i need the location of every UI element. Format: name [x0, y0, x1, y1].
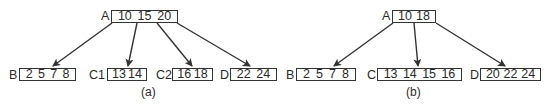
key: 8: [62, 69, 69, 80]
leaf-node-d: 20 22 24: [480, 68, 541, 81]
key: 14: [128, 69, 142, 80]
node-label-b: B: [286, 69, 294, 82]
tree-edges: [0, 0, 553, 105]
key: 10: [118, 11, 132, 22]
edge-a-to-d: [177, 23, 250, 66]
leaf-node-c2: 16 18: [172, 68, 213, 81]
key: 8: [342, 69, 349, 80]
key: 13: [112, 69, 126, 80]
key: 14: [403, 69, 417, 80]
key: 16: [177, 69, 191, 80]
caption-a: (a): [141, 86, 156, 99]
leaf-node-c: 13 14 15 16: [377, 68, 462, 81]
key: 7: [50, 69, 57, 80]
root-node: 10 18: [392, 10, 436, 23]
leaf-node-c1: 13 14: [107, 68, 147, 81]
node-label-root: A: [101, 10, 109, 23]
edge-a-to-b: [53, 23, 112, 66]
edge-a-to-d-b: [436, 23, 505, 66]
key: 15: [138, 11, 152, 22]
key: 7: [329, 69, 336, 80]
key: 15: [422, 69, 436, 80]
edge-a-to-b-b: [334, 23, 393, 66]
key: 10: [398, 11, 412, 22]
key: 24: [256, 69, 270, 80]
key: 5: [38, 69, 45, 80]
key: 18: [416, 11, 430, 22]
edge-a-to-c-b: [414, 23, 418, 66]
node-label-root: A: [382, 10, 390, 23]
leaf-node-b: 2 5 7 8: [19, 68, 76, 81]
node-label-d: D: [470, 69, 479, 82]
key: 5: [316, 69, 323, 80]
key: 22: [237, 69, 251, 80]
key: 24: [521, 69, 535, 80]
key: 2: [303, 69, 310, 80]
node-label-c1: C1: [89, 69, 105, 82]
leaf-node-b: 2 5 7 8: [296, 68, 356, 81]
edge-a-to-c1: [128, 23, 137, 66]
key: 22: [504, 69, 518, 80]
key: 20: [486, 69, 500, 80]
key: 18: [194, 69, 208, 80]
key: 16: [441, 69, 455, 80]
node-label-d: D: [220, 69, 229, 82]
key: 20: [157, 11, 171, 22]
caption-b: (b): [406, 86, 421, 99]
node-label-c2: C2: [156, 69, 172, 82]
node-label-c: C: [367, 69, 376, 82]
root-node: 10 15 20: [111, 10, 178, 23]
leaf-node-d: 22 24: [230, 68, 277, 81]
key: 13: [384, 69, 398, 80]
key: 2: [26, 69, 33, 80]
node-label-b: B: [9, 69, 17, 82]
